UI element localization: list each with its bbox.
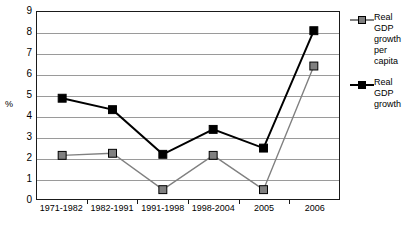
- legend-entry[interactable]: RealGDPgrowthpercapita: [350, 12, 418, 67]
- x-tick-label: 1991-1998: [141, 203, 184, 214]
- y-tick-label: 6: [16, 69, 32, 79]
- y-axis-tick-labels: 0123456789: [16, 0, 32, 233]
- data-point-marker: [109, 106, 117, 114]
- series-line: [62, 31, 314, 155]
- y-tick-label: 4: [16, 111, 32, 121]
- data-point-marker: [109, 149, 117, 157]
- legend-label: RealGDPgrowthpercapita: [374, 12, 414, 67]
- x-axis-tick-labels: 1971-19821982-19911991-19981998-20042005…: [36, 203, 340, 223]
- legend-marker-icon: [358, 81, 366, 89]
- y-tick-label: 0: [16, 195, 32, 205]
- series-layer: [37, 12, 339, 199]
- data-point-marker: [260, 144, 268, 152]
- y-axis-title: %: [2, 99, 16, 109]
- legend-label-line: GDP: [374, 88, 414, 99]
- chart-legend: RealGDPgrowthpercapitaRealGDPgrowth: [350, 12, 418, 120]
- x-tick-label: 1982-1991: [90, 203, 133, 214]
- legend-swatch: [350, 13, 374, 27]
- legend-entry[interactable]: RealGDPgrowth: [350, 77, 418, 110]
- x-tick-label: 2005: [254, 203, 274, 214]
- x-tick-mark: [289, 200, 290, 204]
- legend-marker-icon: [358, 16, 366, 24]
- legend-label-line: growth: [374, 34, 414, 45]
- legend-label-line: Real: [374, 12, 414, 23]
- data-point-marker: [310, 27, 318, 35]
- data-point-marker: [260, 186, 268, 194]
- legend-label-line: Real: [374, 77, 414, 88]
- data-point-marker: [310, 62, 318, 70]
- legend-swatch: [350, 78, 374, 92]
- data-point-marker: [209, 125, 217, 133]
- x-tick-mark: [239, 200, 240, 204]
- y-tick-label: 5: [16, 90, 32, 100]
- x-tick-mark: [188, 200, 189, 204]
- y-tick-label: 3: [16, 132, 32, 142]
- x-tick-label: 1971-1982: [40, 203, 83, 214]
- data-point-marker: [58, 94, 66, 102]
- legend-label: RealGDPgrowth: [374, 77, 414, 110]
- y-tick-label: 7: [16, 48, 32, 58]
- chart-container: % 0123456789 1971-19821982-19911991-1998…: [0, 0, 418, 233]
- legend-label-line: per: [374, 45, 414, 56]
- data-point-marker: [209, 151, 217, 159]
- y-tick-label: 1: [16, 174, 32, 184]
- y-tick-label: 8: [16, 27, 32, 37]
- legend-label-line: capita: [374, 56, 414, 67]
- x-tick-mark: [87, 200, 88, 204]
- x-tick-label: 2006: [305, 203, 325, 214]
- y-tick-label: 2: [16, 153, 32, 163]
- legend-label-line: growth: [374, 99, 414, 110]
- plot-area: [36, 11, 340, 200]
- series-line: [62, 66, 314, 190]
- legend-label-line: GDP: [374, 23, 414, 34]
- data-point-marker: [159, 186, 167, 194]
- y-tick-label: 9: [16, 6, 32, 16]
- x-tick-mark: [137, 200, 138, 204]
- data-point-marker: [58, 151, 66, 159]
- data-point-marker: [159, 150, 167, 158]
- x-tick-label: 1998-2004: [192, 203, 235, 214]
